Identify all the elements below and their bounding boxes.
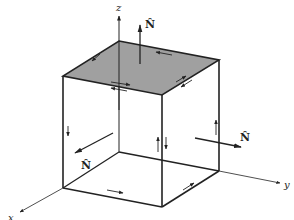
top-face: [63, 41, 219, 95]
right-normal-label: N̂: [240, 131, 250, 144]
right-normal-vector: N̂: [195, 131, 250, 147]
x-axis: x: [8, 188, 63, 220]
traction-arrow: [183, 183, 194, 190]
front-normal-vector: N̂: [75, 133, 113, 172]
y-axis: y: [219, 171, 290, 190]
front-normal-label: N̂: [81, 159, 91, 172]
x-axis-label: x: [8, 212, 14, 220]
top-normal-label: N̂: [145, 18, 155, 31]
traction-arrow: [107, 190, 123, 193]
y-axis-label: y: [283, 179, 290, 190]
cube-diagram: z x y N̂ N̂ N̂: [0, 0, 294, 220]
z-axis-label: z: [115, 2, 122, 13]
